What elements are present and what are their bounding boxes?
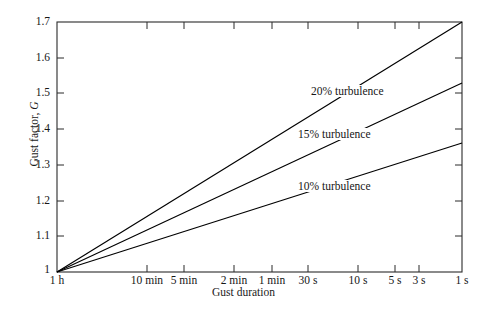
xtick-label-3s: 3 s (400, 274, 438, 286)
xtick-label-5min: 5 min (157, 274, 211, 286)
y-axis-label: Gust factor, G (28, 74, 40, 194)
series-line-15-turbulence (57, 83, 462, 272)
ytick-label-1-2: 1.2 (16, 194, 50, 206)
x-axis-ticks (147, 265, 419, 272)
x-axis-label: Gust duration (0, 286, 487, 298)
x-axis-label-text: Gust duration (212, 286, 275, 298)
series-label-15-turbulence: 15% turbulence (297, 128, 372, 140)
ytick-label-1-7: 1.7 (16, 15, 50, 27)
series-line-10-turbulence (57, 143, 462, 272)
ytick-label-1-1: 1.1 (16, 229, 50, 241)
series-label-20-turbulence: 20% turbulence (310, 85, 385, 97)
y-axis-ticks (57, 58, 64, 236)
x-axis-ticks-top (147, 22, 419, 29)
xtick-label-1s: 1 s (443, 274, 481, 286)
xtick-label-10s: 10 s (336, 274, 380, 286)
plot-area (0, 0, 487, 310)
xtick-label-1h: 1 h (37, 274, 77, 286)
ytick-label-1-6: 1.6 (16, 51, 50, 63)
gust-factor-chart: 1.7 1.6 1.5 1.4 1.3 1.2 1.1 1 Gust facto… (0, 0, 487, 310)
series-label-10-turbulence: 10% turbulence (297, 180, 372, 192)
y-axis-label-text: Gust factor, G (28, 102, 40, 167)
series-line-20-turbulence (57, 22, 462, 272)
xtick-label-30s: 30 s (286, 274, 330, 286)
